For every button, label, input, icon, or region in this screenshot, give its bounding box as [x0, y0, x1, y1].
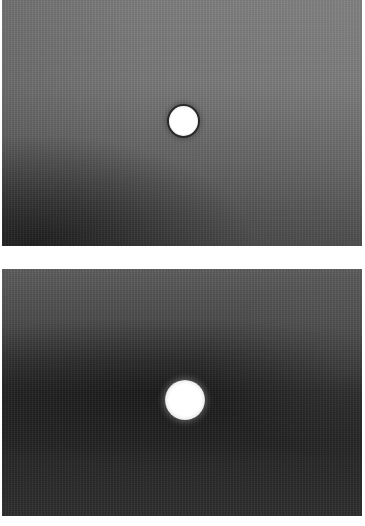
bright-spot-large — [165, 380, 205, 420]
bright-spot-small — [169, 106, 198, 136]
top-photo-panel — [2, 0, 362, 246]
bottom-photo-panel — [2, 269, 362, 516]
